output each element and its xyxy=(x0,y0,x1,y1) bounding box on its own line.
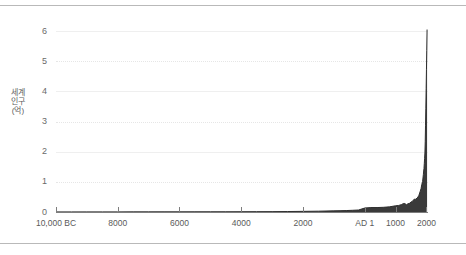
x-tick-label-0: 10,000 BC xyxy=(36,219,76,228)
x-tick-mark-0 xyxy=(56,207,57,213)
x-tick-mark-2 xyxy=(179,207,180,213)
y-tick-label-2: 2 xyxy=(42,147,47,156)
population-line-path xyxy=(56,30,427,212)
population-area-series xyxy=(56,22,428,212)
y-tick-label-0: 0 xyxy=(42,208,47,217)
x-tick-label-4: 2000 xyxy=(294,219,313,228)
x-tick-label-6: 1000 xyxy=(386,219,405,228)
x-tick-mark-6 xyxy=(396,207,397,213)
figure-top-border xyxy=(0,5,466,6)
y-tick-label-6: 6 xyxy=(42,27,47,36)
y-axis-tick-group: 0123456 xyxy=(0,0,56,255)
x-tick-label-7: 2000 xyxy=(417,219,436,228)
chart-figure: 세계인구(억) 0123456 10,000 BC800060004000200… xyxy=(0,0,466,255)
y-tick-label-5: 5 xyxy=(42,57,47,66)
y-tick-label-1: 1 xyxy=(42,177,47,186)
plot-area xyxy=(56,22,428,212)
x-tick-label-2: 6000 xyxy=(170,219,189,228)
y-tick-label-3: 3 xyxy=(42,117,47,126)
x-tick-mark-3 xyxy=(241,207,242,213)
x-tick-mark-7 xyxy=(426,207,427,213)
population-area-path xyxy=(56,30,427,212)
x-tick-label-1: 8000 xyxy=(108,219,127,228)
x-tick-mark-1 xyxy=(118,207,119,213)
x-tick-label-3: 4000 xyxy=(232,219,251,228)
x-tick-mark-5 xyxy=(365,207,366,213)
x-tick-mark-4 xyxy=(303,207,304,213)
figure-bottom-border xyxy=(0,243,466,244)
y-tick-label-4: 4 xyxy=(42,87,47,96)
x-tick-label-5: AD 1 xyxy=(355,219,374,228)
